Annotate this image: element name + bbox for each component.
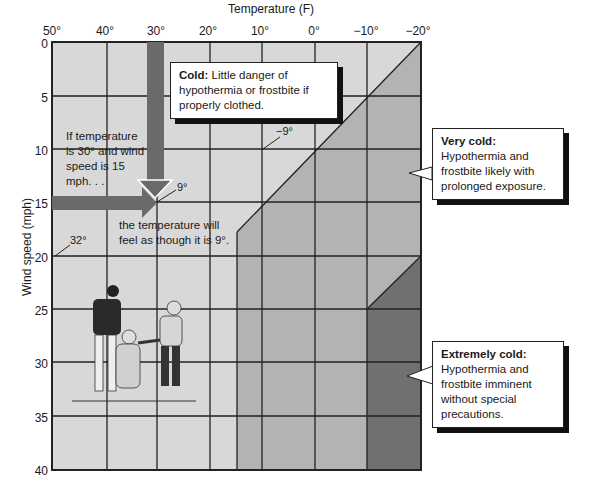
callout-very-cold-title: Very cold: (441, 135, 496, 147)
callout-cold: Cold: Little danger of hypothermia or fr… (170, 62, 338, 119)
example-then-text: the temperature will feel as though it i… (119, 218, 231, 248)
callout-extremely-cold: Extremely cold: Hypothermia and frostbit… (432, 341, 564, 428)
example-if-text: If temperature is 30° and wind speed is … (66, 129, 146, 189)
annotation-32: 32° (70, 234, 87, 246)
callout-cold-title: Cold: (179, 69, 208, 81)
annotation-minus9: −9° (276, 125, 293, 137)
callout-very-cold: Very cold: Hypothermia and frostbite lik… (432, 128, 564, 200)
callout-very-cold-text: Hypothermia and frostbite likely with pr… (441, 150, 546, 192)
callout-extremely-cold-text: Hypothermia and frostbite imminent witho… (441, 363, 532, 420)
annotation-9: 9° (177, 181, 188, 193)
callout-extremely-cold-title: Extremely cold: (441, 348, 527, 360)
